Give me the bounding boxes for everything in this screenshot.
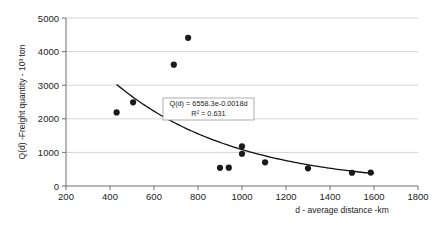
data-point <box>185 35 191 41</box>
y-tick-label: 5000 <box>38 13 59 24</box>
x-tick-label: 600 <box>146 191 162 202</box>
equation-annotation: Q(d) = 6558.3e-0.0018d R² = 0.631 <box>163 98 254 120</box>
data-point <box>262 159 268 165</box>
scatter-chart: 010002000300040005000 200400600800100012… <box>0 0 435 232</box>
chart-figure: 010002000300040005000 200400600800100012… <box>0 0 435 232</box>
x-tick-label: 1800 <box>407 191 428 202</box>
y-tick-label: 0 <box>54 181 59 192</box>
data-point <box>114 109 120 115</box>
data-point <box>217 165 223 171</box>
data-point <box>226 165 232 171</box>
equation-text: Q(d) = 6558.3e-0.0018d <box>169 99 247 108</box>
x-tick-label: 200 <box>58 191 74 202</box>
data-point <box>239 143 245 149</box>
y-tick-label: 2000 <box>38 113 59 124</box>
data-point <box>368 169 374 175</box>
y-axis-title: Q(d) -Freight quantity - 10³ ton <box>17 44 27 159</box>
data-point <box>171 62 177 68</box>
x-tick-label: 1400 <box>319 191 340 202</box>
data-point <box>305 165 311 171</box>
data-point <box>349 170 355 176</box>
x-tick-label: 1200 <box>275 191 296 202</box>
y-tick-label: 4000 <box>38 46 59 57</box>
y-tick-label: 3000 <box>38 80 59 91</box>
data-point <box>130 99 136 105</box>
y-tick-label: 1000 <box>38 147 59 158</box>
x-tick-label: 800 <box>190 191 206 202</box>
x-tick-label: 1000 <box>231 191 252 202</box>
x-tick-label: 400 <box>102 191 118 202</box>
x-axis-title: d - average distance -km <box>295 205 389 215</box>
x-tick-label: 1600 <box>363 191 384 202</box>
r-squared-text: R² = 0.631 <box>191 109 225 118</box>
data-point <box>239 151 245 157</box>
